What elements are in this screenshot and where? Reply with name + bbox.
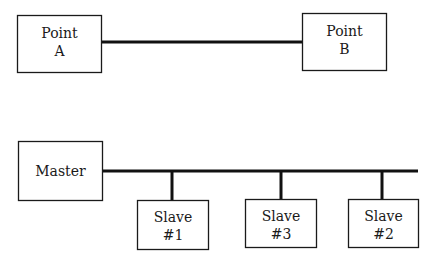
node-slave-3: Slave #3 — [246, 200, 317, 248]
node-point-b: Point B — [303, 14, 387, 71]
node-label-line1: Point — [41, 25, 78, 41]
multidrop-section: Master Slave #1 Slave #3 Slave #2 — [19, 142, 419, 250]
node-label-line2: B — [339, 41, 349, 57]
node-point-a: Point A — [18, 16, 102, 73]
topology-diagram: Point A Point B Master Slave #1 Slave #3 — [0, 0, 431, 263]
node-slave-2: Slave #2 — [349, 200, 419, 248]
node-master: Master — [19, 142, 103, 201]
node-label-line1: Slave — [364, 208, 403, 224]
node-label-line2: #2 — [373, 226, 394, 242]
node-slave-1: Slave #1 — [138, 201, 209, 250]
node-label-line2: #3 — [271, 226, 292, 242]
node-label: Master — [35, 163, 86, 179]
node-label-line1: Slave — [154, 209, 193, 225]
node-label-line2: #1 — [163, 227, 184, 243]
node-label-line2: A — [53, 43, 65, 59]
node-label-line1: Slave — [262, 208, 301, 224]
node-label-line1: Point — [326, 23, 363, 39]
point-to-point-section: Point A Point B — [18, 14, 387, 73]
